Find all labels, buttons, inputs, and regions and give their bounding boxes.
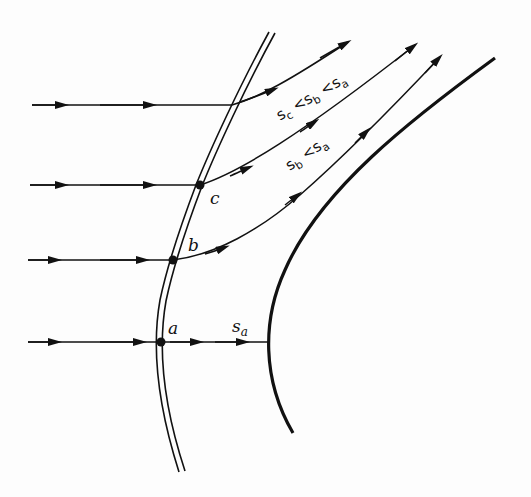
point-c-dot (196, 181, 205, 190)
point-c-label: c (210, 190, 220, 207)
streamline-b (28, 57, 440, 260)
point-a-label: a (168, 320, 178, 337)
entropy-sa-label: sa (232, 318, 248, 338)
streamline-c (30, 45, 415, 185)
point-b-dot (169, 256, 178, 265)
diagram-svg (0, 0, 531, 497)
point-b-label: b (188, 237, 199, 254)
shock-wave (156, 32, 275, 472)
diagram-canvas: a b c sa sc <sb <sa sb <sa (0, 0, 531, 497)
point-a-dot (157, 338, 166, 347)
